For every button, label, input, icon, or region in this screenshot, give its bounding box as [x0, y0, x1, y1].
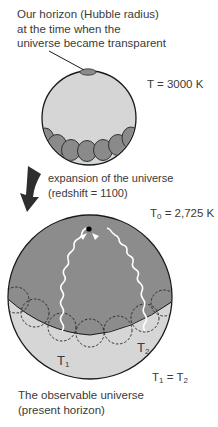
temp-symbol: T	[150, 207, 157, 219]
horizon-caption: Our horizon (Hubble radius) at the time …	[17, 7, 166, 51]
hubble-horizon-patch	[80, 69, 96, 75]
temperature-equality-label: T1 = T2	[152, 370, 188, 389]
caption-line: The observable universe	[18, 388, 144, 403]
t1-subscript: 1	[65, 360, 69, 369]
caption-line: at the time when the	[17, 22, 166, 37]
caption-line: universe became transparent	[17, 36, 166, 51]
temp-value: = 2,725 K	[161, 207, 214, 219]
caption-line: (redshift = 1100)	[48, 186, 173, 201]
t1-label: T1	[57, 354, 69, 373]
expansion-caption: expansion of the universe (redshift = 11…	[48, 171, 173, 200]
pointer-line	[49, 51, 84, 70]
t2-symbol: T	[137, 340, 145, 355]
caption-line: Our horizon (Hubble radius)	[17, 7, 166, 22]
observable-caption: The observable universe (present horizon…	[18, 388, 144, 417]
expansion-arrow-icon	[20, 166, 41, 212]
caption-line: expansion of the universe	[48, 171, 173, 186]
eq-t2-sub: 2	[183, 376, 187, 385]
t2-label: T2	[137, 341, 149, 360]
observer-point	[86, 226, 91, 231]
temperature-now-label: T0 = 2,725 K	[150, 206, 214, 225]
early-universe-sphere	[36, 69, 140, 165]
t2-subscript: 2	[145, 347, 149, 356]
caption-line: (present horizon)	[18, 403, 144, 418]
temperature-early-label: T = 3000 K	[147, 77, 203, 92]
eq-t1: T	[152, 371, 159, 383]
t1-symbol: T	[57, 353, 65, 368]
eq-sign: =	[163, 371, 176, 383]
